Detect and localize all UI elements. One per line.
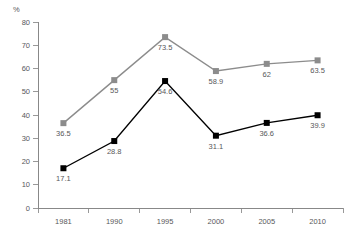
y-axis-unit-label: %	[13, 5, 20, 14]
data-point-value-label: 36.6	[259, 129, 274, 138]
x-axis-category-label: 1981	[55, 217, 72, 226]
data-point-marker	[162, 78, 168, 84]
chart-container: % 01020304050607080 36.55573.558.96263.5…	[0, 0, 351, 232]
data-point-value-label: 62	[263, 70, 271, 79]
series-line-gray-series	[63, 37, 317, 123]
x-axis-labels: 198119901995200020052010	[55, 217, 326, 226]
data-point-value-label: 55	[110, 86, 118, 95]
y-tick-label: 50	[22, 87, 30, 96]
data-point-marker	[162, 34, 168, 40]
y-tick-label: 80	[22, 18, 30, 27]
y-tick-label: 60	[22, 64, 30, 73]
y-axis-ticks: 01020304050607080	[22, 18, 38, 213]
data-point-marker	[264, 120, 270, 126]
data-point-marker	[111, 138, 117, 144]
data-point-marker	[111, 77, 117, 83]
data-point-marker	[315, 57, 321, 63]
x-axis-category-label: 1990	[106, 217, 123, 226]
y-tick-label: 20	[22, 157, 30, 166]
x-axis-category-label: 2005	[258, 217, 275, 226]
y-tick-label: 0	[26, 204, 30, 213]
x-axis-category-label: 2010	[309, 217, 326, 226]
series-line-black-series	[63, 81, 317, 168]
data-point-marker	[213, 68, 219, 74]
data-point-value-label: 31.1	[209, 142, 224, 151]
y-tick-label: 30	[22, 134, 30, 143]
data-point-value-label: 17.1	[56, 174, 71, 183]
data-point-marker	[264, 61, 270, 67]
y-tick-label: 40	[22, 111, 30, 120]
data-point-value-label: 54.6	[158, 87, 173, 96]
x-axis-ticks	[38, 208, 343, 213]
series-layer	[60, 34, 320, 171]
data-point-value-label: 63.5	[310, 66, 325, 75]
data-point-marker	[315, 112, 321, 118]
data-point-value-label: 36.5	[56, 129, 71, 138]
x-axis-category-label: 1995	[157, 217, 174, 226]
x-axis-category-label: 2000	[208, 217, 225, 226]
data-point-value-label: 28.8	[107, 147, 122, 156]
data-point-value-label: 58.9	[209, 77, 224, 86]
data-point-marker	[60, 165, 66, 171]
line-chart: % 01020304050607080 36.55573.558.96263.5…	[0, 0, 351, 232]
value-labels-layer: 36.55573.558.96263.517.128.854.631.136.6…	[56, 43, 325, 183]
data-point-marker	[60, 120, 66, 126]
data-point-value-label: 73.5	[158, 43, 173, 52]
data-point-marker	[213, 133, 219, 139]
data-point-value-label: 39.9	[310, 121, 325, 130]
y-tick-label: 10	[22, 180, 30, 189]
y-tick-label: 70	[22, 41, 30, 50]
